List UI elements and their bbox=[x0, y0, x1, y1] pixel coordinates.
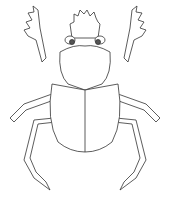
hind-left-leg bbox=[24, 118, 56, 190]
middle-left-leg bbox=[10, 94, 54, 122]
pronotum bbox=[60, 46, 111, 90]
middle-right-leg bbox=[116, 94, 160, 122]
head bbox=[70, 10, 100, 38]
beetle-drawing bbox=[0, 0, 170, 201]
front-left-leg bbox=[24, 6, 46, 62]
hind-right-leg bbox=[114, 118, 146, 190]
front-right-leg bbox=[124, 6, 146, 62]
beetle-illustration: scarab beetle line drawing bbox=[0, 0, 170, 201]
